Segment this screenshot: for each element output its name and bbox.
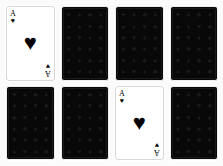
- suit-icon: ♣: [121, 34, 126, 41]
- card-back-pattern: ♥♠♣♦♠♦♥♣♣♥♦♠♦♣♠♥♥♦♣♠♠♥♦♣: [118, 9, 161, 78]
- suit-icon: ♥: [77, 148, 81, 155]
- suit-icon: ♠: [176, 148, 180, 155]
- suit-icon: ♣: [207, 148, 212, 155]
- suit-icon: ♣: [88, 11, 93, 18]
- suit-icon: ♠: [121, 68, 125, 75]
- suit-icon: ♦: [132, 23, 136, 30]
- card-grid: A♥♥A♥♥♠♣♦♠♦♥♣♣♥♦♠♦♣♠♥♥♦♣♠♠♥♦♣♥♠♣♦♠♦♥♣♣♥♦…: [0, 0, 223, 166]
- suit-icon: ♣: [44, 148, 49, 155]
- suit-icon: ♦: [78, 57, 82, 64]
- card-index-top-left: A♥: [119, 90, 125, 104]
- suit-icon: ♠: [143, 45, 147, 52]
- suit-icon: ♥: [67, 57, 71, 64]
- suit-icon: ♠: [67, 102, 71, 109]
- suit-icon: ♠: [208, 34, 212, 41]
- suit-icon: ♦: [78, 136, 82, 143]
- suit-icon: ♣: [23, 125, 28, 132]
- suit-icon: ♠: [67, 23, 71, 30]
- card-face-down[interactable]: ♥♠♣♦♠♦♥♣♣♥♦♠♦♣♠♥♥♦♣♠♠♥♦♣: [170, 6, 219, 81]
- card-back-pattern: ♥♠♣♦♠♦♥♣♣♥♦♠♦♣♠♥♥♦♣♠♠♥♦♣: [173, 9, 216, 78]
- suit-icon: ♣: [176, 34, 181, 41]
- suit-icon: ♠: [99, 114, 103, 121]
- suit-icon: ♦: [78, 102, 82, 109]
- card-face-down[interactable]: ♥♠♣♦♠♦♥♣♣♥♦♠♦♣♠♥♥♦♣♠♠♥♦♣: [170, 86, 219, 161]
- suit-icon: ♠: [176, 102, 180, 109]
- suit-icon: ♣: [98, 148, 103, 155]
- suit-icon: ♦: [143, 34, 147, 41]
- card-index-top-left: A♥: [10, 10, 16, 24]
- suit-icon: ♦: [23, 102, 27, 109]
- suit-icon: ♣: [12, 114, 17, 121]
- suit-icon: ♥: [23, 114, 27, 121]
- suit-icon: ♠: [78, 11, 82, 18]
- suit-icon: ♥: [197, 102, 201, 109]
- suit-icon: ♠: [132, 11, 136, 18]
- suit-icon: ♥: [186, 148, 190, 155]
- suit-icon: ♥: [176, 57, 180, 64]
- suit-icon: ♣: [132, 45, 137, 52]
- suit-icon: ♥: [77, 68, 81, 75]
- heart-icon: ♥: [155, 142, 159, 149]
- suit-icon: ♦: [88, 114, 92, 121]
- suit-icon: ♦: [197, 68, 201, 75]
- suit-icon: ♥: [142, 23, 146, 30]
- suit-icon: ♣: [186, 125, 191, 132]
- card-face-down[interactable]: ♥♠♣♦♠♦♥♣♣♥♦♠♦♣♠♥♥♦♣♠♠♥♦♣: [61, 6, 110, 81]
- card-face-down[interactable]: ♥♠♣♦♠♦♥♣♣♥♦♠♦♣♠♥♥♦♣♠♠♥♦♣: [6, 86, 55, 161]
- suit-icon: ♣: [176, 114, 181, 121]
- suit-icon: ♥: [186, 34, 190, 41]
- suit-icon: ♣: [98, 68, 103, 75]
- card-face-down[interactable]: ♥♠♣♦♠♦♥♣♣♥♦♠♦♣♠♥♥♦♣♠♠♥♦♣: [115, 6, 164, 81]
- suit-icon: ♠: [67, 148, 71, 155]
- suit-icon: ♥: [23, 148, 27, 155]
- suit-icon: ♣: [197, 136, 202, 143]
- suit-icon: ♣: [207, 102, 212, 109]
- suit-icon: ♥: [12, 136, 16, 143]
- card-rank: A: [154, 148, 160, 156]
- card-face-down[interactable]: ♥♠♣♦♠♦♥♣♣♥♦♠♦♣♠♥♥♦♣♠♠♥♦♣: [61, 86, 110, 161]
- suit-icon: ♦: [44, 91, 48, 98]
- suit-icon: ♠: [208, 114, 212, 121]
- heart-icon: ♥: [120, 97, 124, 104]
- suit-icon: ♣: [67, 114, 72, 121]
- suit-icon: ♣: [153, 23, 158, 30]
- card-back-pattern: ♥♠♣♦♠♦♥♣♣♥♦♠♦♣♠♥♥♦♣♠♠♥♦♣: [9, 89, 52, 158]
- suit-icon: ♦: [197, 148, 201, 155]
- suit-icon: ♣: [153, 68, 158, 75]
- suit-icon: ♥: [186, 114, 190, 121]
- suit-icon: ♠: [153, 57, 157, 64]
- suit-icon: ♠: [176, 23, 180, 30]
- suit-icon: ♣: [88, 136, 93, 143]
- suit-icon: ♥: [132, 34, 136, 41]
- suit-icon: ♦: [88, 68, 92, 75]
- card-ace-of-hearts[interactable]: A♥♥A♥: [115, 86, 164, 161]
- suit-icon: ♦: [176, 45, 180, 52]
- suit-icon: ♠: [88, 45, 92, 52]
- suit-icon: ♦: [208, 11, 212, 18]
- suit-icon: ♦: [187, 23, 191, 30]
- suit-icon: ♥: [197, 23, 201, 30]
- heart-icon: ♥: [24, 32, 37, 54]
- suit-icon: ♠: [208, 57, 212, 64]
- suit-icon: ♠: [67, 68, 71, 75]
- suit-icon: ♦: [143, 68, 147, 75]
- card-ace-of-hearts[interactable]: A♥♥A♥: [6, 6, 55, 81]
- suit-icon: ♥: [99, 45, 103, 52]
- suit-icon: ♦: [197, 34, 201, 41]
- suit-icon: ♦: [67, 125, 71, 132]
- suit-icon: ♥: [208, 45, 212, 52]
- suit-icon: ♦: [132, 57, 136, 64]
- card-back-pattern: ♥♠♣♦♠♦♥♣♣♥♦♠♦♣♠♥♥♦♣♠♠♥♦♣: [64, 9, 107, 78]
- suit-icon: ♣: [142, 11, 147, 18]
- suit-icon: ♣: [77, 45, 82, 52]
- suit-icon: ♥: [77, 114, 81, 121]
- suit-icon: ♠: [44, 114, 48, 121]
- suit-icon: ♠: [44, 136, 48, 143]
- suit-icon: ♥: [176, 11, 180, 18]
- suit-icon: ♥: [153, 45, 157, 52]
- suit-icon: ♣: [98, 102, 103, 109]
- suit-icon: ♠: [187, 11, 191, 18]
- suit-icon: ♦: [153, 11, 157, 18]
- suit-icon: ♦: [197, 114, 201, 121]
- suit-icon: ♥: [176, 91, 180, 98]
